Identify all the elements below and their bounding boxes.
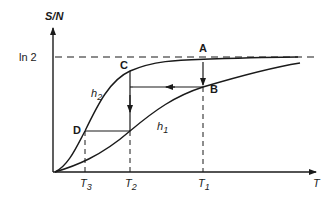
curve-h2-label: h2 <box>91 87 102 102</box>
curve-h2 <box>55 57 298 172</box>
diagram-canvas: S/N ln 2 A B C D h2 h1 T3 T2 T1 T <box>0 0 335 204</box>
curve-h1-label: h1 <box>157 120 168 135</box>
point-d-label: D <box>73 124 81 136</box>
point-b-label: B <box>210 83 218 95</box>
x-axis-label: T <box>313 177 321 189</box>
point-a-label: A <box>199 42 207 54</box>
ln2-label: ln 2 <box>19 51 37 63</box>
y-axis-label: S/N <box>45 10 64 22</box>
schematic-diagram: S/N ln 2 A B C D h2 h1 T3 T2 T1 T <box>0 0 335 204</box>
tick-t1-label: T1 <box>198 177 210 192</box>
tick-t2-label: T2 <box>125 177 137 192</box>
point-c-label: C <box>120 59 128 71</box>
tick-t3-label: T3 <box>80 177 92 192</box>
